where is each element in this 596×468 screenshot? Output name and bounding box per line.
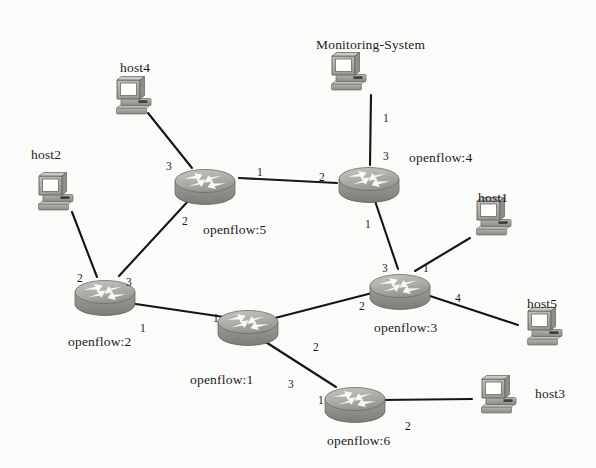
port-label-of3-2: 2 — [359, 300, 365, 312]
port-label-of2-3: 3 — [126, 276, 132, 288]
port-label-of4-1: 1 — [365, 218, 371, 230]
port-label-of6-1: 1 — [318, 394, 324, 406]
router-label-of6: openflow:6 — [327, 433, 391, 449]
link-of1-of6 — [261, 339, 336, 387]
router-icon-of6[interactable] — [325, 388, 385, 423]
router-label-of1: openflow:1 — [190, 372, 254, 388]
link-of2-of1 — [129, 303, 224, 317]
router-label-of4: openflow:4 — [409, 150, 473, 166]
router-label-of2: openflow:2 — [68, 334, 132, 350]
host-icon-host2[interactable] — [39, 173, 74, 211]
nodes-layer — [39, 53, 563, 423]
port-label-of5-3: 3 — [166, 160, 172, 172]
host-icon-host3[interactable] — [482, 376, 517, 414]
link-of3-host5 — [427, 295, 518, 325]
host-label-host2: host2 — [31, 147, 61, 163]
link-of4-of3 — [374, 198, 398, 269]
network-topology-diagram — [0, 0, 596, 468]
router-icon-of4[interactable] — [339, 168, 399, 203]
host-label-host1: host1 — [478, 190, 508, 206]
port-label-of2-1: 1 — [140, 322, 146, 334]
port-label-of1-3: 3 — [288, 378, 294, 390]
host-icon-host5[interactable] — [528, 308, 563, 346]
port-label-of3-1: 1 — [423, 262, 429, 274]
port-label-of5-1: 1 — [257, 166, 263, 178]
link-monitoring-of4 — [370, 95, 371, 165]
router-icon-of3[interactable] — [370, 275, 430, 310]
port-label-of5-2: 2 — [182, 215, 188, 227]
host-label-host3: host3 — [535, 386, 565, 402]
port-label-of3-3: 3 — [382, 262, 388, 274]
router-icon-of1[interactable] — [218, 311, 278, 346]
port-label-of4-2: 2 — [319, 171, 325, 183]
port-label-of3-4: 4 — [455, 292, 461, 304]
links-layer — [72, 95, 518, 400]
port-label-of1-2: 2 — [313, 341, 319, 353]
port-label-of2-2: 2 — [77, 272, 83, 284]
port-label-monitoring-1: 1 — [383, 112, 389, 124]
port-label-of1-1: 1 — [213, 312, 219, 324]
link-of2-of5 — [119, 199, 190, 276]
host-icon-monitoring[interactable] — [332, 53, 367, 91]
host-label-monitoring: Monitoring-System — [316, 37, 425, 53]
port-label-of4-3: 3 — [383, 150, 389, 162]
router-label-of5: openflow:5 — [203, 222, 267, 238]
link-of6-host3 — [382, 399, 472, 400]
link-host2-of2 — [72, 212, 97, 277]
host-label-host4: host4 — [120, 60, 150, 76]
port-label-of6-2: 2 — [405, 420, 411, 432]
router-icon-of5[interactable] — [175, 170, 235, 205]
host-label-host5: host5 — [527, 296, 557, 312]
host-icon-host4[interactable] — [117, 77, 152, 115]
router-label-of3: openflow:3 — [374, 320, 438, 336]
